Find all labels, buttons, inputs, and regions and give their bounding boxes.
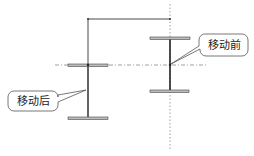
after-bottom-flange [68, 117, 108, 120]
after-beam [68, 64, 108, 120]
move-path-line [88, 19, 170, 65]
callout-after-label: 移动后 [17, 95, 50, 108]
path-corner-dot [87, 18, 89, 20]
path-start-dot [169, 18, 171, 20]
callout-after: 移动后 [8, 90, 86, 111]
move-diagram: 移动前 移动后 [0, 0, 254, 156]
before-top-flange [150, 37, 190, 40]
callout-before-label: 移动前 [208, 38, 241, 52]
before-bottom-flange [150, 90, 189, 93]
